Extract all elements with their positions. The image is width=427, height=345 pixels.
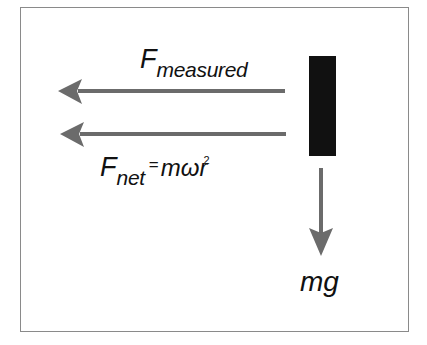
f-net-subscript: net (117, 166, 145, 189)
f-net-label: Fnet=mωr2 (100, 152, 214, 183)
mass-block (309, 56, 336, 156)
gravity-text: mg (300, 266, 339, 297)
f-measured-main: F (140, 44, 157, 74)
f-measured-label: Fmeasured (140, 44, 247, 75)
f-net-rhs: mωr (161, 154, 208, 181)
f-net-main: F (100, 152, 117, 182)
f-measured-arrow (58, 79, 285, 104)
f-net-arrow (60, 122, 286, 147)
f-measured-subscript: measured (157, 58, 248, 81)
gravity-label: mg (300, 266, 339, 298)
f-net-superscript: 2 (203, 154, 209, 166)
gravity-arrow (309, 168, 333, 256)
f-net-equals: = (149, 155, 159, 174)
